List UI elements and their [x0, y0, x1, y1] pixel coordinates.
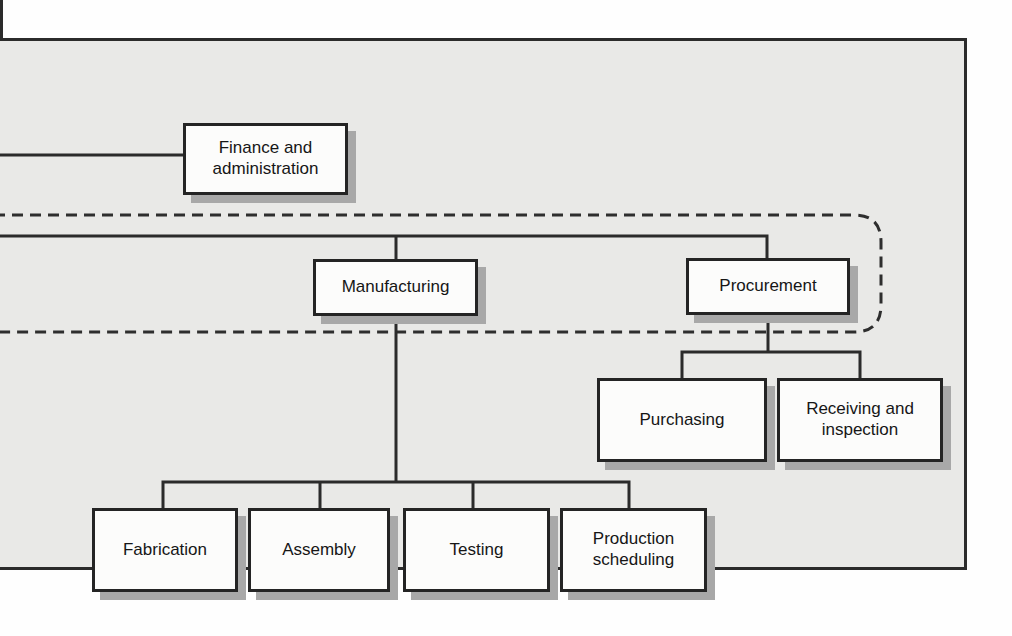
node-label: Production scheduling — [569, 529, 698, 570]
node-label: Purchasing — [639, 410, 724, 431]
node-assembly: Assembly — [248, 508, 390, 592]
node-label: Procurement — [719, 276, 816, 297]
node-label: Finance and administration — [192, 138, 339, 179]
node-manufacturing: Manufacturing — [313, 259, 478, 316]
node-label: Receiving and inspection — [786, 399, 934, 440]
node-label: Manufacturing — [342, 277, 450, 298]
node-label: Assembly — [282, 540, 356, 561]
node-production-scheduling: Production scheduling — [560, 508, 707, 592]
node-finance-and-administration: Finance and administration — [183, 123, 348, 195]
node-purchasing: Purchasing — [597, 378, 767, 462]
node-receiving-and-inspection: Receiving and inspection — [777, 378, 943, 462]
node-label: Testing — [450, 540, 504, 561]
node-testing: Testing — [403, 508, 550, 592]
node-label: Fabrication — [123, 540, 207, 561]
node-procurement: Procurement — [686, 258, 850, 315]
org-chart-figure: Finance and administration Manufacturing… — [0, 0, 1012, 636]
node-fabrication: Fabrication — [92, 508, 238, 592]
